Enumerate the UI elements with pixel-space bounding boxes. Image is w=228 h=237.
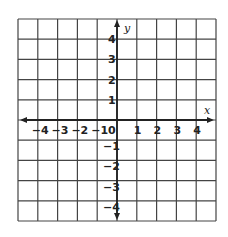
x-tick-label: −3 xyxy=(52,124,69,137)
y-tick-label: −2 xyxy=(103,160,120,173)
y-tick-label: −1 xyxy=(103,140,120,153)
y-tick-label: 3 xyxy=(108,53,116,66)
y-tick-label: 2 xyxy=(108,74,116,87)
x-axis-arrow-right-icon xyxy=(207,117,214,123)
x-tick-label: −2 xyxy=(71,124,88,137)
y-tick-label: −4 xyxy=(103,201,120,214)
x-tick-label: −1 xyxy=(91,124,108,137)
coordinate-plane: −4−3−2−101234 4321−1−2−3−4 x y xyxy=(0,0,228,237)
x-axis-label: x xyxy=(204,104,211,117)
y-axis-arrow-up-icon xyxy=(114,20,120,27)
x-tick-label: 1 xyxy=(134,124,142,137)
x-tick-label: 2 xyxy=(154,124,162,137)
y-axis-arrow-down-icon xyxy=(114,213,120,220)
x-axis-arrow-left-icon xyxy=(20,117,27,123)
y-tick-label: −3 xyxy=(103,181,120,194)
x-tick-label: −4 xyxy=(32,124,49,137)
y-axis-label: y xyxy=(123,22,131,35)
x-tick-label: 4 xyxy=(193,124,201,137)
y-tick-label: 1 xyxy=(108,94,116,107)
y-tick-label: 4 xyxy=(108,33,116,46)
x-tick-label: 0 xyxy=(108,124,116,137)
x-tick-label: 3 xyxy=(173,124,181,137)
